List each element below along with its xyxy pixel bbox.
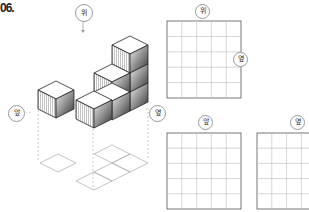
grid-front-view bbox=[167, 133, 241, 209]
grid-top-view bbox=[167, 21, 241, 98]
label-grid-side: 옆 bbox=[290, 115, 305, 130]
label-grid-front: 앞 bbox=[198, 115, 213, 130]
label-grid-top: 위 bbox=[195, 4, 210, 19]
label-grid-top-side: 옆 bbox=[233, 52, 248, 67]
grid-side-view bbox=[257, 133, 309, 209]
label-side-arrow: 옆 bbox=[149, 105, 166, 122]
label-top-arrow: 위 bbox=[75, 4, 93, 22]
label-front-arrow: 앞 bbox=[8, 105, 25, 122]
